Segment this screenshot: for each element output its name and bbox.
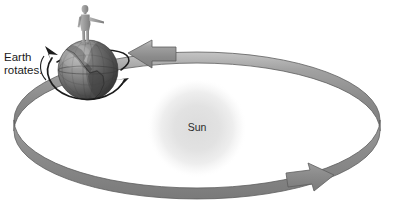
sun-label: Sun [188,121,207,133]
earth-rotates-label-line1: Earth [4,51,32,63]
earth-globe [58,40,122,100]
person-figure [78,5,104,42]
diagram-canvas: Sun [0,0,393,207]
earth-rotates-label-line2: rotates. [4,64,42,76]
earth-orbit-diagram: Sun [0,0,393,207]
